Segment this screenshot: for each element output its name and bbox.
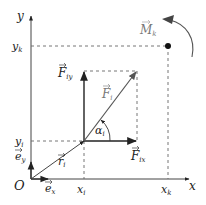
svg-text:ri: ri — [58, 155, 66, 169]
ex-label: ex — [45, 180, 56, 196]
yi-label: yi — [14, 135, 23, 149]
point-k — [165, 43, 171, 49]
fi-label: Fi — [101, 84, 113, 102]
xi-label: xi — [77, 183, 85, 197]
svg-text:Fix: Fix — [130, 149, 146, 164]
x-axis-label: x — [189, 179, 196, 193]
yk-label: yk — [11, 40, 22, 54]
fiy-label: Fiy — [57, 63, 74, 81]
fix-label: Fix — [130, 146, 146, 164]
svg-text:Mk: Mk — [139, 23, 157, 38]
svg-text:ey: ey — [15, 150, 27, 164]
ey-label: ey — [15, 148, 27, 164]
svg-text:Fi: Fi — [101, 87, 113, 102]
moment-arrow — [170, 20, 193, 57]
origin-label: O — [14, 178, 25, 193]
alpha-label: αi — [95, 124, 105, 138]
dashed-guides — [31, 46, 168, 179]
force-moment-diagram: y x O yk yi xi xk ex ey ri Fiy Fix Fi αi… — [0, 0, 206, 205]
moment-arrowhead — [162, 15, 174, 24]
y-axis-label: y — [16, 9, 24, 23]
svg-text:Fiy: Fiy — [57, 66, 74, 81]
force-vector-fi — [84, 72, 136, 141]
ri-label: ri — [58, 153, 66, 169]
xk-label: xk — [161, 183, 171, 197]
mk-label: Mk — [139, 20, 157, 38]
